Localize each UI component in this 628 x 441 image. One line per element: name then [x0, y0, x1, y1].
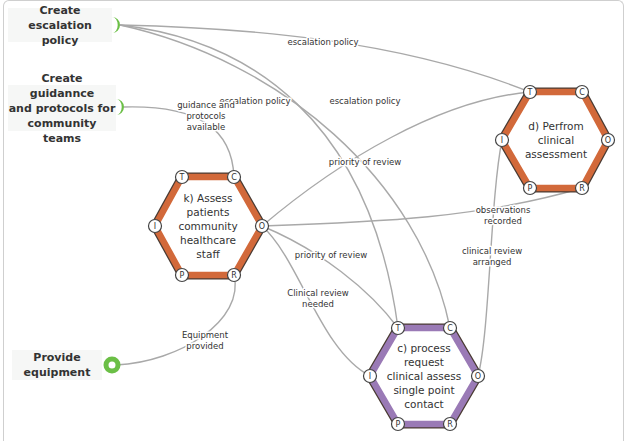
svg-text:I: I [154, 222, 156, 231]
svg-text:O: O [475, 372, 481, 381]
port-I[interactable]: I [364, 370, 377, 383]
edge-label: observationsobservationsrecordedrecorded [476, 205, 531, 226]
function-hexagon-k[interactable]: k) Assesspatientscommunityhealthcarestaf… [149, 171, 269, 282]
svg-text:C: C [579, 88, 585, 97]
input-function-guidance[interactable]: Create guidannceand protocols forcommuni… [8, 85, 116, 131]
function-label: clinical assess [387, 370, 461, 382]
edge-line [262, 226, 398, 328]
svg-text:recorded: recorded [484, 216, 522, 226]
input-label-line: Create escalation [8, 3, 112, 33]
input-function-escalation[interactable]: Create escalationpolicy [8, 8, 112, 42]
input-label-line: policy [8, 33, 112, 48]
port-O[interactable]: O [472, 370, 485, 383]
input-label-line: Provide [24, 350, 91, 365]
edge-line [116, 275, 235, 365]
svg-text:R: R [579, 184, 585, 193]
edge-label: guidance andguidance andprotocolsprotoco… [177, 100, 235, 132]
svg-text:Equipment: Equipment [182, 330, 229, 340]
port-I[interactable]: I [149, 220, 162, 233]
input-label-line: and protocols for [8, 101, 116, 116]
input-label-line: equipment [24, 365, 91, 380]
port-P[interactable]: P [176, 269, 189, 282]
port-C[interactable]: C [576, 86, 589, 99]
function-label: patients [187, 206, 230, 218]
function-label: k) Assess [183, 192, 232, 204]
edge-line [120, 25, 450, 328]
function-label: staff [196, 248, 220, 260]
svg-text:priority of review: priority of review [329, 157, 401, 167]
input-function-equipment[interactable]: Provideequipment [12, 350, 102, 380]
function-label: single point [393, 384, 454, 396]
function-label: request [404, 356, 444, 368]
function-label: c) process [397, 342, 451, 354]
svg-text:escalation policy: escalation policy [329, 96, 400, 106]
edge-line [120, 25, 530, 92]
svg-text:T: T [395, 324, 401, 333]
port-P[interactable]: P [524, 182, 537, 195]
edge-label: escalation policyescalation policy [287, 37, 358, 47]
svg-text:R: R [447, 420, 453, 429]
svg-text:C: C [447, 324, 453, 333]
svg-text:protocols: protocols [186, 111, 226, 121]
svg-text:observations: observations [476, 205, 531, 215]
edge-label: priority of reviewpriority of review [329, 157, 401, 167]
edge-line [120, 25, 398, 328]
port-T[interactable]: T [524, 86, 537, 99]
svg-text:needed: needed [302, 299, 334, 309]
svg-text:O: O [259, 222, 265, 231]
function-label: clinical [538, 134, 574, 146]
svg-text:T: T [527, 88, 533, 97]
port-C[interactable]: C [228, 171, 241, 184]
input-connector-ring-icon[interactable] [106, 359, 118, 371]
svg-text:I: I [369, 372, 371, 381]
port-O[interactable]: O [602, 134, 615, 147]
svg-text:I: I [501, 136, 503, 145]
input-connector-halfmoon-icon[interactable] [116, 99, 124, 115]
port-T[interactable]: T [392, 322, 405, 335]
input-connector-halfmoon-icon[interactable] [112, 17, 120, 33]
svg-text:R: R [231, 271, 237, 280]
function-label: assessment [525, 148, 587, 160]
svg-text:provided: provided [186, 341, 223, 351]
svg-text:P: P [528, 184, 533, 193]
function-label: d) Perfrom [528, 120, 583, 132]
function-label: healthcare [180, 234, 236, 246]
svg-text:O: O [605, 136, 611, 145]
function-hexagon-c[interactable]: c) processrequestclinical assesssingle p… [364, 322, 485, 431]
svg-text:clinical review: clinical review [462, 246, 522, 256]
input-label-line: Create guidannce [8, 71, 116, 101]
svg-text:escalation policy: escalation policy [287, 37, 358, 47]
svg-text:arranged: arranged [473, 257, 512, 267]
svg-text:Clinical review: Clinical review [287, 288, 349, 298]
svg-text:priority of review: priority of review [295, 250, 367, 260]
port-P[interactable]: P [392, 418, 405, 431]
edge-label: escalation policyescalation policy [329, 96, 400, 106]
svg-text:P: P [396, 420, 401, 429]
function-hexagon-d[interactable]: d) PerfromclinicalassessmentTCORPI [496, 86, 615, 195]
svg-text:available: available [187, 122, 225, 132]
port-R[interactable]: R [576, 182, 589, 195]
edge-label: Clinical reviewClinical reviewneededneed… [287, 288, 349, 309]
edge-label: EquipmentEquipmentprovidedprovided [182, 330, 229, 351]
port-I[interactable]: I [496, 134, 509, 147]
input-label-line: community teams [8, 116, 116, 146]
svg-text:C: C [231, 173, 237, 182]
port-O[interactable]: O [256, 220, 269, 233]
svg-text:P: P [180, 271, 185, 280]
port-C[interactable]: C [444, 322, 457, 335]
svg-text:T: T [179, 173, 185, 182]
function-label: contact [404, 398, 443, 410]
port-R[interactable]: R [444, 418, 457, 431]
functions-layer: k) Assesspatientscommunityhealthcarestaf… [149, 86, 615, 431]
function-label: community [178, 220, 237, 232]
port-T[interactable]: T [176, 171, 189, 184]
port-R[interactable]: R [228, 269, 241, 282]
edge-label: priority of reviewpriority of review [295, 250, 367, 260]
edge-label: clinical reviewclinical reviewarrangedar… [462, 246, 522, 267]
svg-text:guidance and: guidance and [177, 100, 235, 110]
